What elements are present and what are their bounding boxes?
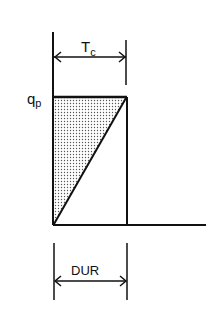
tc-label: Tc <box>81 38 96 58</box>
hydrograph-diagram: Tc qp DUR <box>0 0 222 320</box>
diagram-svg: Tc qp DUR <box>0 0 222 320</box>
qp-label: qp <box>27 90 41 109</box>
dur-label: DUR <box>71 263 99 278</box>
